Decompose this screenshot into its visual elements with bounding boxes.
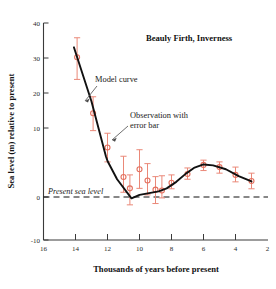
x-ticklabel-10: 10 [136,245,144,253]
sea-level-chart-figure: 40 30 20 10 0 -10 16 14 12 10 8 6 4 2 Pr… [0,0,276,289]
annotation-observation-line2: error bar [130,121,159,130]
annotation-model-curve-label: Model curve [95,75,138,84]
x-ticklabel-8: 8 [170,245,174,253]
chart-title: Beauly Firth, Inverness [146,33,233,43]
x-axis-title: Thousands of years before present [93,264,219,274]
x-ticklabel-2: 2 [266,245,270,253]
observation-data-layer [74,38,255,205]
x-ticklabel-6: 6 [202,245,206,253]
present-sea-level-label: Present sea level [47,187,104,196]
observation-point [136,150,142,189]
y-ticklabel-20: 20 [33,90,41,98]
y-ticklabel-0: 0 [37,194,41,202]
observation-point [152,177,158,204]
annotation-observation-line1: Observation with [130,111,189,120]
x-ticks-group: 16 14 12 10 8 6 4 2 [40,234,270,253]
x-ticklabel-16: 16 [40,245,48,253]
annotation-observation-leader [112,126,128,140]
chart-svg: 40 30 20 10 0 -10 16 14 12 10 8 6 4 2 Pr… [0,0,276,289]
y-ticklabel-minus10: -10 [31,237,41,245]
x-ticklabel-12: 12 [104,245,112,253]
observation-point [159,176,165,198]
y-ticklabel-40: 40 [33,20,41,28]
observation-point [104,133,110,162]
y-ticks-group: 40 30 20 10 0 -10 [31,20,49,245]
y-ticklabel-10: 10 [33,125,41,133]
observation-point [127,175,133,205]
annotation-observation: Observation with error bar [112,111,189,142]
y-axis-title: Sea level (m) relative to present [6,73,16,188]
y-ticklabel-30: 30 [33,55,41,63]
observation-point [144,164,150,195]
x-ticklabel-14: 14 [72,245,80,253]
x-ticklabel-4: 4 [234,245,238,253]
